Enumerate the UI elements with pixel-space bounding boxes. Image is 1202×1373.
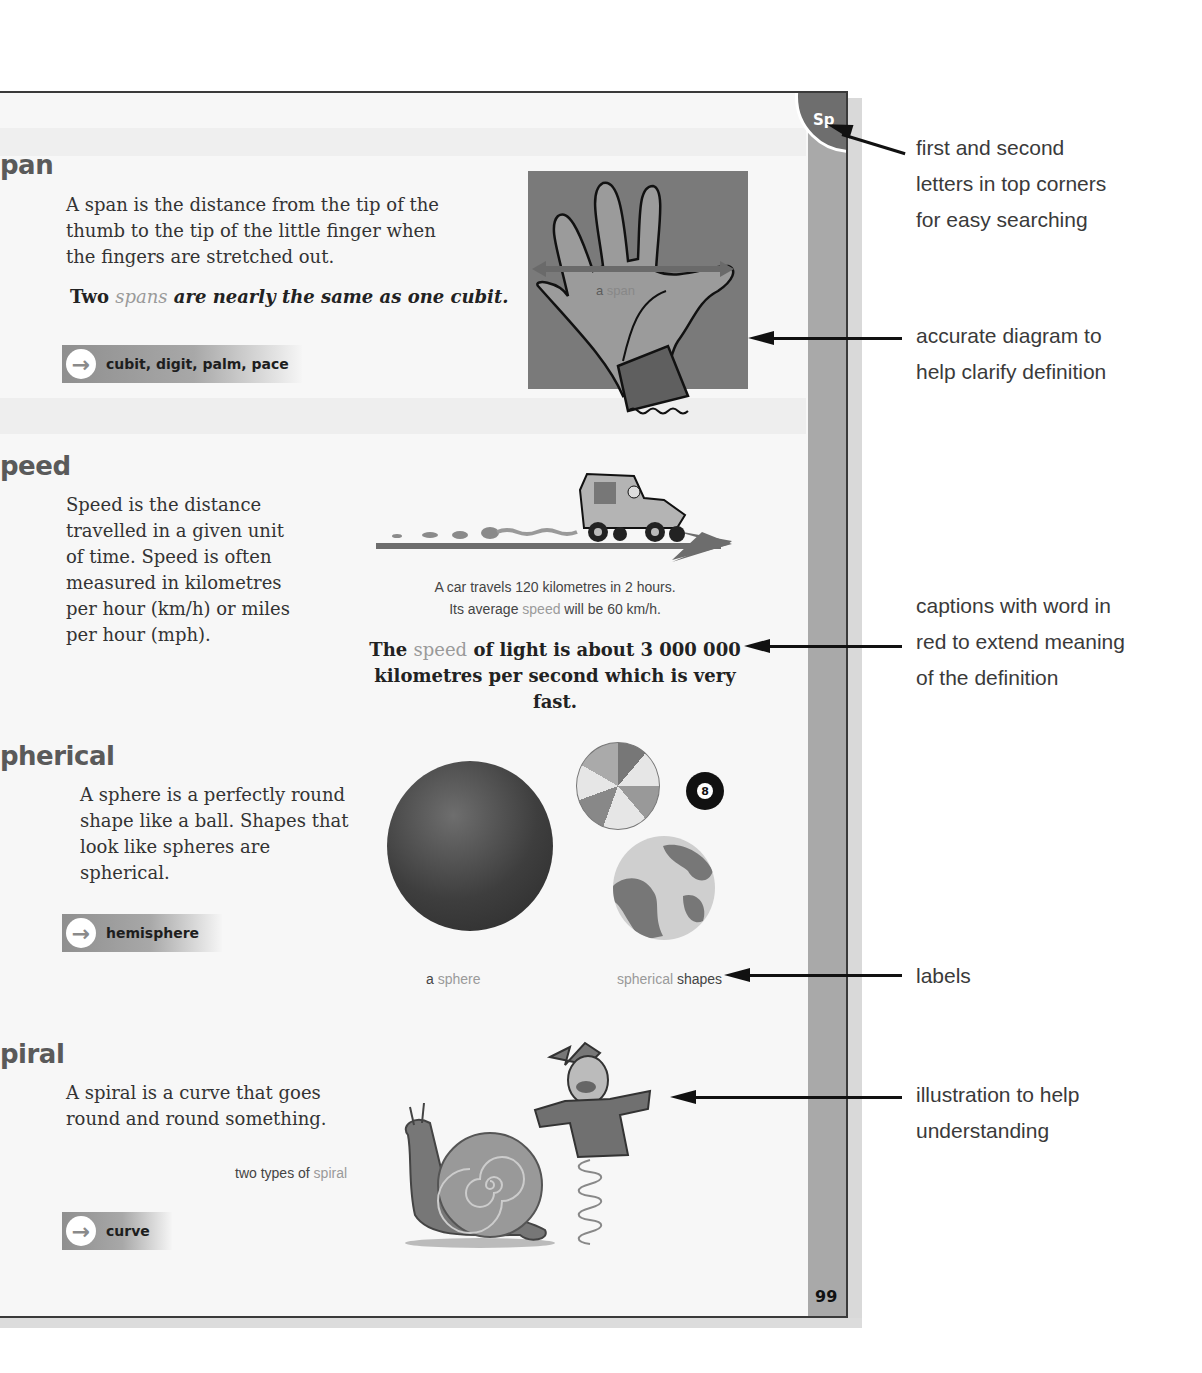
sphere-illustration xyxy=(387,761,553,931)
annotation-illustration: illustration to helpunderstanding xyxy=(916,1077,1079,1149)
hand-span-diagram: a span xyxy=(528,171,748,389)
leader-line xyxy=(770,337,902,340)
sphere-label: a sphere xyxy=(426,971,481,987)
diagram-label: a span xyxy=(596,283,635,298)
page-shadow xyxy=(848,98,862,1328)
annotation-captions: captions with word inred to extend meani… xyxy=(916,588,1125,696)
see-also-link[interactable]: → hemisphere xyxy=(62,914,222,952)
page-number: 99 xyxy=(815,1287,837,1306)
entry-term: pan xyxy=(0,150,53,180)
arrow-right-icon: → xyxy=(66,918,96,948)
globe-icon xyxy=(613,836,715,940)
entry-definition: A spiral is a curve that goes round and … xyxy=(66,1080,327,1132)
entry-definition: A sphere is a perfectly round shape like… xyxy=(80,782,349,886)
arrowhead-icon xyxy=(724,968,750,982)
spherical-shapes-label: spherical shapes xyxy=(617,971,722,987)
eight-ball-icon: 8 xyxy=(686,772,724,810)
see-also-link[interactable]: → curve xyxy=(62,1212,172,1250)
beach-ball-icon xyxy=(576,742,660,830)
entry-term: piral xyxy=(0,1039,64,1069)
margin-strip xyxy=(808,93,846,1316)
arrow-right-icon: → xyxy=(66,349,96,379)
see-also-text: cubit, digit, palm, pace xyxy=(106,356,289,372)
leader-line xyxy=(768,645,902,648)
annotation-corner-letters: first and secondletters in top cornersfo… xyxy=(916,130,1106,238)
car-illustration xyxy=(372,470,742,570)
entry-example: Two spans are nearly the same as one cub… xyxy=(70,284,509,310)
arrow-right-icon: → xyxy=(66,1216,96,1246)
arrowhead-icon xyxy=(744,639,770,653)
snail-and-jack-in-the-box-illustration xyxy=(400,1035,680,1255)
entry-definition: Speed is the distance travelled in a giv… xyxy=(66,492,290,648)
see-also-link[interactable]: → cubit, digit, palm, pace xyxy=(62,345,302,383)
illustration-caption: two types of spiral xyxy=(235,1162,347,1184)
see-also-text: curve xyxy=(106,1223,150,1239)
see-also-text: hemisphere xyxy=(106,925,199,941)
entry-definition: A span is the distance from the tip of t… xyxy=(66,192,439,270)
leader-line xyxy=(748,974,902,977)
illustration-caption: A car travels 120 kilometres in 2 hours.… xyxy=(390,576,720,620)
arrowhead-icon xyxy=(670,1090,696,1104)
arrowhead-icon xyxy=(748,331,774,345)
page-shadow xyxy=(0,1318,862,1328)
annotation-labels: labels xyxy=(916,958,971,994)
entry-term: pherical xyxy=(0,741,114,771)
entry-term: peed xyxy=(0,451,71,481)
leader-line xyxy=(692,1096,902,1099)
entry-example: The speed of light is about 3 000 000 ki… xyxy=(355,637,755,715)
header-band xyxy=(0,128,806,156)
annotation-diagram: accurate diagram tohelp clarify definiti… xyxy=(916,318,1106,390)
